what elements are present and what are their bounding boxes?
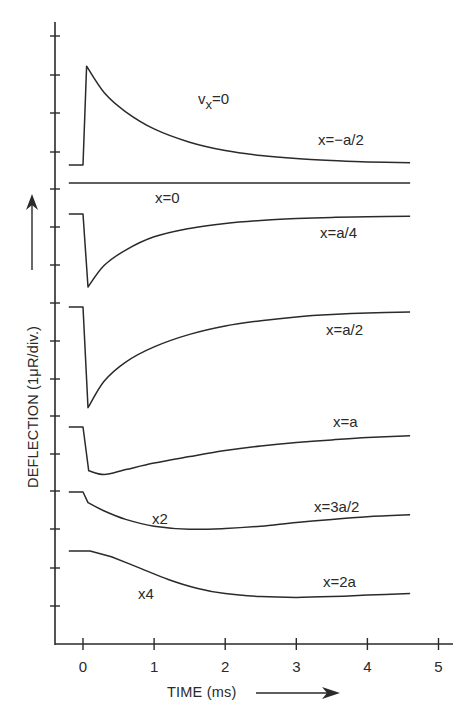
x-axis: 012345 <box>55 638 453 675</box>
y-axis-arrow-icon <box>26 194 38 270</box>
curve-label: x2 <box>152 510 168 527</box>
x-axis-tick-labels: 012345 <box>79 658 443 675</box>
curve-label: x=a <box>333 413 358 430</box>
curve-label: x=3a/2 <box>314 498 359 515</box>
deflection-vs-time-chart: 012345 x=−a/2x=0x=a/4x=a/2x=ax=3a/2x2x=2… <box>0 0 470 722</box>
vx-annotation: vx=0 <box>198 90 229 112</box>
x-tick-label: 3 <box>292 658 300 675</box>
y-axis <box>50 22 60 645</box>
curve-label: x4 <box>138 585 154 602</box>
curve-x-a-4 <box>69 214 410 287</box>
x-tick-label: 0 <box>79 658 87 675</box>
curve-x-2a <box>69 551 410 597</box>
curve-x-a-2 <box>69 66 410 165</box>
x-tick-label: 1 <box>150 658 158 675</box>
x-axis-arrow-icon <box>256 687 340 699</box>
curve-label: x=0 <box>155 189 180 206</box>
curve-labels: x=−a/2x=0x=a/4x=a/2x=ax=3a/2x2x=2ax4 <box>138 131 364 602</box>
x-tick-label: 4 <box>363 658 371 675</box>
curve-label: x=a/2 <box>326 321 363 338</box>
x-tick-label: 5 <box>434 658 442 675</box>
curve-label: x=a/4 <box>320 224 357 241</box>
curve-x-a <box>69 427 410 475</box>
y-axis-title: DEFLECTION (1μR/div.) <box>25 326 41 488</box>
curve-label: x=−a/2 <box>318 131 364 148</box>
curve-label: x=2a <box>323 573 357 590</box>
x-tick-label: 2 <box>221 658 229 675</box>
x-axis-title: TIME (ms) <box>167 684 236 700</box>
